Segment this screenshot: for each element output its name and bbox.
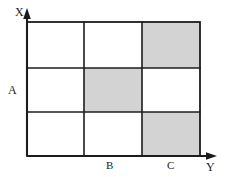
y-axis-label: Y: [206, 161, 215, 173]
grid-cell-r1c3-shaded: [142, 22, 200, 68]
row-marker-label-a: A: [8, 84, 17, 96]
vertical-axis: [23, 8, 31, 156]
grid-diagram-figure: X Y A B C: [0, 0, 227, 177]
column-marker-label-c: C: [167, 160, 174, 171]
grid-cell-r3c3-shaded: [142, 112, 200, 156]
right-arrow-icon: [206, 152, 217, 160]
grid-cell-r2c2-shaded: [84, 68, 142, 112]
column-marker-label-b: B: [106, 160, 113, 171]
diagram-canvas: [0, 0, 227, 177]
x-axis-label: X: [15, 6, 24, 18]
up-arrow-icon: [23, 8, 31, 19]
